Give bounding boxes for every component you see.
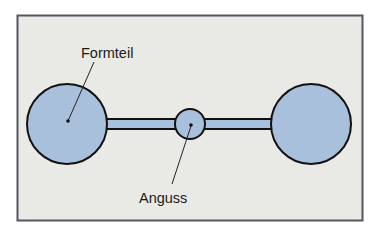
runner-left: [104, 119, 178, 129]
part-leader-dot: [66, 119, 70, 123]
runner-right: [202, 119, 274, 129]
sprue-leader-dot: [189, 123, 193, 127]
molded-part-left: [27, 84, 107, 164]
molded-part-right: [271, 84, 351, 164]
injection-mold-diagram: Formteil Anguss: [0, 0, 370, 242]
part-label: Formteil: [81, 45, 133, 61]
sprue-label: Anguss: [139, 190, 187, 206]
